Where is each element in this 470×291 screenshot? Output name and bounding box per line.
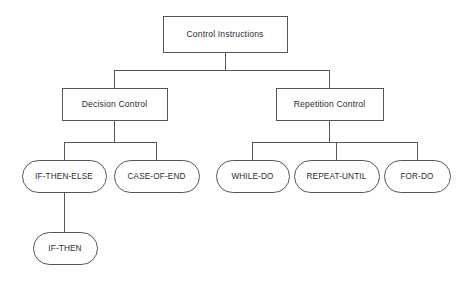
node-repetition-control[interactable]: Repetition Control <box>277 89 384 121</box>
diagram-canvas: Control InstructionsDecision ControlRepe… <box>0 0 470 291</box>
node-label: Repetition Control <box>294 99 366 109</box>
node-label: REPEAT-UNTIL <box>307 172 367 181</box>
node-while-do[interactable]: WHILE-DO <box>217 161 290 193</box>
node-label: IF-THEN <box>48 244 81 253</box>
node-label: Decision Control <box>82 99 147 109</box>
node-if-then-else[interactable]: IF-THEN-ELSE <box>23 161 107 193</box>
node-label: CASE-OF-END <box>127 172 185 181</box>
node-label: FOR-DO <box>400 172 433 181</box>
control-instructions-tree-diagram: Control InstructionsDecision ControlRepe… <box>0 0 470 291</box>
node-layer: Control InstructionsDecision ControlRepe… <box>23 17 451 265</box>
node-for-do[interactable]: FOR-DO <box>385 161 451 193</box>
node-repeat-until[interactable]: REPEAT-UNTIL <box>295 161 380 193</box>
node-control-instructions[interactable]: Control Instructions <box>164 17 288 53</box>
node-decision-control[interactable]: Decision Control <box>63 89 168 121</box>
node-if-then[interactable]: IF-THEN <box>34 233 98 265</box>
node-label: IF-THEN-ELSE <box>35 172 93 181</box>
node-case-of-end[interactable]: CASE-OF-END <box>115 161 200 193</box>
node-label: Control Instructions <box>186 29 263 39</box>
node-label: WHILE-DO <box>231 172 273 181</box>
connector-layer <box>64 52 417 232</box>
